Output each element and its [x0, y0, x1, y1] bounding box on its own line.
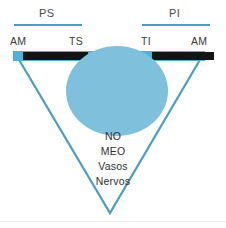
label-vasos: Vasos [98, 161, 127, 172]
tarsal-plate-left [23, 52, 88, 60]
label-meo: MEO [101, 146, 126, 157]
anatomy-diagram: PS PI AM TS TI AM NO MEO Vasos Nervos [0, 0, 226, 228]
page-baseline-rule [0, 221, 226, 222]
eye-globe-circle [66, 46, 168, 136]
label-no: NO [105, 131, 121, 142]
label-nervos: Nervos [96, 176, 130, 187]
tarsal-plate-right [152, 52, 214, 60]
